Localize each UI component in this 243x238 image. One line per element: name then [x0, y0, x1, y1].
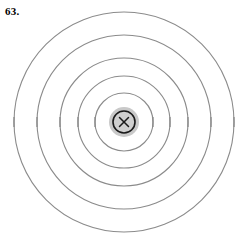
- figure-container: 63.: [0, 0, 243, 238]
- current-carrying-wire-into-page: [109, 107, 139, 137]
- magnetic-field-diagram: [0, 0, 243, 238]
